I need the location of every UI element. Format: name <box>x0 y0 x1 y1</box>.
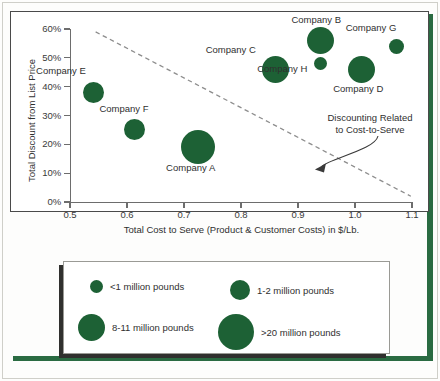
legend-bubble-swatch <box>218 314 254 350</box>
scatter-chart-panel <box>10 11 429 212</box>
legend-entry[interactable]: >20 million pounds <box>218 314 340 350</box>
chart-page: 0%10%20%30%40%50%60% 0.50.60.70.80.91.01… <box>0 0 440 381</box>
legend-bubble-swatch <box>78 314 105 341</box>
legend-entry[interactable]: 1-2 million pounds <box>230 280 334 300</box>
legend-label: 8-11 million pounds <box>112 322 194 333</box>
x-axis-title: Total Cost to Serve (Product & Customer … <box>70 224 413 235</box>
legend-label: >20 million pounds <box>261 327 340 338</box>
legend-bubble-swatch <box>230 280 250 300</box>
legend-label: <1 million pounds <box>110 281 184 292</box>
legend-label: 1-2 million pounds <box>257 285 334 296</box>
legend-entry[interactable]: <1 million pounds <box>90 280 184 293</box>
legend-box: <1 million pounds1-2 million pounds8-11 … <box>63 261 390 354</box>
legend-entry[interactable]: 8-11 million pounds <box>78 314 194 341</box>
legend-bubble-swatch <box>90 280 103 293</box>
